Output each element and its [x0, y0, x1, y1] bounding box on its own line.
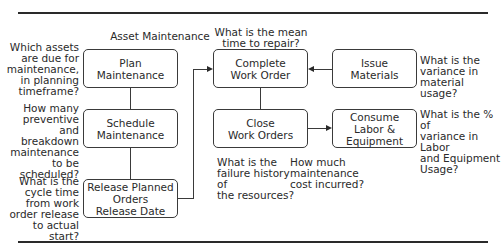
- connector-issue-to-complete: [314, 69, 332, 70]
- connector-complete-close: [260, 88, 261, 109]
- release-planned-orders-label: Release Planned Orders Release Date: [87, 181, 173, 217]
- question-complete: What is the mean time to repair?: [205, 27, 317, 49]
- question-failure-history: What is the failure history of the resou…: [217, 157, 297, 201]
- connector-to-complete: [193, 69, 207, 70]
- plan-maintenance-box: Plan Maintenance: [83, 49, 178, 88]
- close-work-orders-box: Close Work Orders: [213, 109, 308, 148]
- question-consume: What is the % of variance in Labor and E…: [420, 109, 504, 175]
- schedule-maintenance-box: Schedule Maintenance: [83, 109, 178, 148]
- bottom-rule: [18, 241, 488, 243]
- consume-labor-equipment-label: Consume Labor & Equipment: [346, 111, 403, 147]
- arrow-into-complete-from-issue-icon: [308, 66, 314, 72]
- complete-work-order-label: Complete Work Order: [231, 57, 291, 81]
- schedule-maintenance-label: Schedule Maintenance: [97, 117, 165, 141]
- close-work-orders-label: Close Work Orders: [228, 117, 293, 141]
- question-issue: What is the variance in material usage?: [420, 55, 504, 99]
- question-release: What is the cycle time from work order r…: [0, 176, 79, 242]
- connector-close-to-consume: [308, 128, 326, 129]
- release-planned-orders-box: Release Planned Orders Release Date: [83, 179, 178, 218]
- issue-materials-label: Issue Materials: [350, 57, 398, 81]
- connector-release-horizontal: [178, 198, 194, 199]
- question-maintenance-cost: How much maintenance cost incurred?: [290, 157, 370, 190]
- question-schedule: How many preventive and breakdown mainte…: [0, 103, 79, 180]
- issue-materials-box: Issue Materials: [332, 49, 417, 88]
- top-rule: [18, 12, 488, 14]
- consume-labor-equipment-box: Consume Labor & Equipment: [332, 109, 417, 148]
- arrow-into-consume-icon: [326, 125, 332, 131]
- question-plan: Which assets are due for maintenance, in…: [0, 42, 79, 97]
- connector-plan-schedule: [130, 88, 131, 109]
- plan-maintenance-label: Plan Maintenance: [97, 57, 165, 81]
- connector-schedule-release: [130, 148, 131, 179]
- diagram-title: Asset Maintenance: [100, 31, 220, 42]
- complete-work-order-box: Complete Work Order: [213, 49, 308, 88]
- connector-release-vertical: [193, 69, 194, 199]
